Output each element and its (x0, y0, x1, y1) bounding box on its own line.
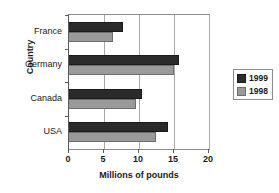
x-axis-tick-label: 15 (168, 154, 178, 164)
legend-item-1998[interactable]: 1998 (237, 86, 268, 96)
bar-usa-1999 (69, 122, 168, 132)
bar-germany-1998 (69, 65, 174, 75)
category-label: Germany (16, 48, 65, 82)
category-tick (65, 82, 69, 83)
x-axis-tick (208, 149, 209, 153)
bar-germany-1999 (69, 55, 179, 65)
gridline (209, 15, 210, 149)
legend-swatch-icon-1999 (237, 74, 246, 83)
plot-area (68, 14, 210, 150)
x-axis-tick-label: 20 (203, 154, 213, 164)
bar-france-1998 (69, 32, 113, 42)
legend-label: 1999 (249, 73, 268, 83)
category-tick (65, 116, 69, 117)
x-axis-tick-labels: 05101520 (68, 154, 210, 166)
x-axis-tick-label: 10 (133, 154, 143, 164)
bar-canada-1998 (69, 99, 136, 109)
category-tick (65, 49, 69, 50)
bar-group (69, 15, 209, 49)
chart-legend: 1999 1998 (233, 69, 273, 100)
bar-groups (69, 15, 209, 149)
legend-item-1999[interactable]: 1999 (237, 73, 268, 83)
x-axis-tick-label: 0 (65, 154, 70, 164)
category-axis-labels: France Germany Canada USA (16, 14, 65, 148)
category-label: USA (16, 115, 65, 149)
bar-group (69, 116, 209, 150)
bar-france-1999 (69, 22, 123, 32)
category-label: France (16, 14, 65, 48)
bar-usa-1998 (69, 132, 156, 142)
x-axis-title: Millions of pounds (68, 170, 210, 180)
bar-canada-1999 (69, 89, 142, 99)
legend-swatch-icon-1998 (237, 87, 246, 96)
legend-label: 1998 (249, 86, 268, 96)
x-axis-tick (138, 149, 139, 153)
x-axis-tick (173, 149, 174, 153)
x-axis-tick (103, 149, 104, 153)
bar-group (69, 82, 209, 116)
x-axis-tick-label: 5 (100, 154, 105, 164)
x-axis-tick (68, 149, 69, 153)
category-tick (65, 15, 69, 16)
category-label: Canada (16, 81, 65, 115)
chart-screenshot: Country France Germany Canada USA 051015… (0, 0, 279, 193)
bar-group (69, 49, 209, 83)
